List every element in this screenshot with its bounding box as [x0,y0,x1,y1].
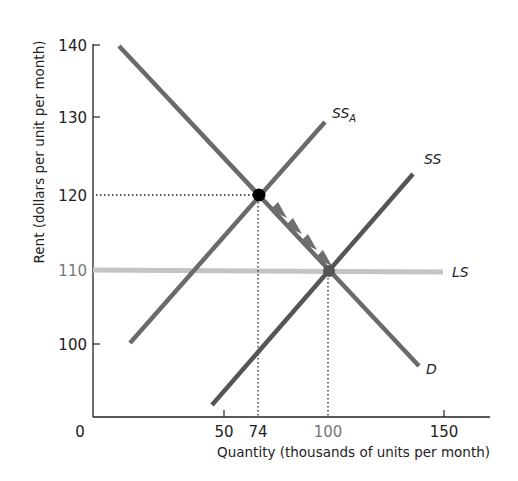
origin-label: 0 [75,423,85,441]
y-axis-title: Rent (dollars per unit per month) [31,41,47,264]
short-run-equilibrium-point [253,189,266,202]
y-tick-labels: 140 130 120 110 100 [58,37,87,354]
ssa-label-main: SS [332,105,349,121]
y-tick-label-110: 110 [58,262,87,280]
long-run-equilibrium-point [323,265,335,277]
demand-curve [119,46,419,366]
y-tick-label-100: 100 [58,336,87,354]
d-label: D [426,361,437,377]
x-axis-title: Quantity (thousands of units per month) [217,444,490,460]
ss-label: SS [424,151,441,167]
ls-curve [93,270,443,272]
x-tick-labels: 0 50 74 100 150 [75,423,458,441]
ls-label: LS [452,264,469,280]
x-tick-label-150: 150 [430,423,459,441]
y-tick-label-130: 130 [58,109,87,127]
x-tick-label-100: 100 [314,423,343,441]
adjustment-arrows [270,202,332,266]
ssa-label-subscript: A [348,113,356,124]
y-tick-label-140: 140 [58,37,87,55]
x-tick-label-50: 50 [214,423,233,441]
y-tick-label-120: 120 [58,187,87,205]
rent-supply-demand-chart: 140 130 120 110 100 0 50 74 100 150 Quan… [0,0,518,481]
x-tick-label-74: 74 [248,423,267,441]
ssa-label: SSA [332,105,356,124]
ss-curve [212,174,413,405]
